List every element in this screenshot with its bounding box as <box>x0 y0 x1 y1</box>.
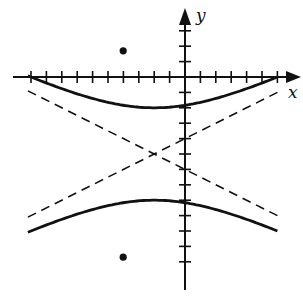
focus-upper-point <box>120 47 127 54</box>
asymptote-descending <box>28 91 277 216</box>
y-axis-arrow-icon <box>179 8 191 25</box>
asymptote-ascending <box>28 92 277 217</box>
hyperbola-lower-branch <box>28 200 278 232</box>
x-axis <box>13 71 301 83</box>
asymptotes <box>28 91 277 217</box>
focus-lower-point <box>120 254 127 261</box>
x-axis-label: x <box>288 82 298 102</box>
hyperbola-upper-branch <box>28 76 278 108</box>
hyperbola-graph: y x <box>0 0 303 298</box>
y-axis-label: y <box>195 5 206 25</box>
y-axis <box>179 8 191 290</box>
